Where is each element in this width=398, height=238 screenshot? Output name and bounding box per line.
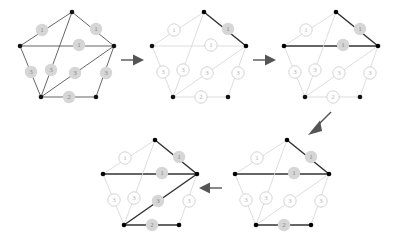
label-weight: 1 [94, 25, 98, 33]
arrow-3-to-4 [308, 112, 331, 135]
mst-steps-figure: 1 1 1 3 3 3 3 [0, 0, 398, 238]
vertex-right [376, 44, 381, 49]
vertex-bottom-left [122, 223, 127, 228]
panel-5: 1 1 1 3 3 3 3 [101, 138, 200, 232]
vertex-bottom-left [254, 223, 259, 228]
label-weight: 1 [172, 26, 176, 34]
label-weight: 3 [49, 66, 53, 74]
label-weight: 1 [358, 25, 362, 33]
arrow-4-to-5 [199, 183, 222, 194]
label-weight: 3 [264, 194, 268, 202]
arrow-head-right-icon [133, 55, 144, 66]
label-weight: 3 [104, 69, 108, 77]
vertex-bottom-right [94, 95, 99, 100]
edge-top-bottom-left [41, 12, 72, 97]
label-top-right: 1 [90, 23, 102, 35]
vertex-left [18, 44, 23, 49]
vertex-top [202, 10, 207, 15]
label-bottom-left-bottom-right: 2 [63, 91, 75, 103]
label-weight: 2 [150, 221, 154, 229]
label-top-bottom-left: 3 [177, 64, 189, 76]
label-top-bottom-left: 3 [45, 64, 57, 76]
vertex-left [282, 44, 287, 49]
label-top-right: 1 [222, 23, 234, 35]
label-top-left: 1 [168, 24, 180, 36]
vertex-right [327, 172, 332, 177]
label-weight: 1 [292, 169, 296, 177]
label-top-left: 1 [300, 24, 312, 36]
label-weight: 1 [177, 153, 181, 161]
label-weight: 1 [123, 154, 127, 162]
label-weight: 3 [288, 197, 292, 205]
panel-1: 1 1 1 3 3 3 3 [18, 10, 117, 104]
label-weight: 1 [304, 26, 308, 34]
label-bottom-left-bottom-right: 2 [278, 219, 290, 231]
label-weight: 3 [156, 197, 160, 205]
arrow-head-left-icon [199, 183, 210, 194]
label-top-right: 1 [305, 151, 317, 163]
label-top-left: 1 [119, 152, 131, 164]
vertex-bottom-left [171, 95, 176, 100]
panel-3: 1 1 1 3 3 3 3 [282, 10, 381, 104]
arrow-head-down-left-icon [308, 121, 322, 136]
label-weight: 2 [67, 93, 71, 101]
label-left-bottom-left: 3 [108, 194, 120, 206]
arrow-2-to-3 [253, 55, 276, 66]
label-top-left: 1 [251, 152, 263, 164]
label-weight: 3 [319, 197, 323, 205]
label-weight: 3 [368, 69, 372, 77]
label-weight: 1 [341, 41, 345, 49]
label-weight: 3 [293, 68, 297, 76]
label-left-bottom-left: 3 [157, 66, 169, 78]
vertex-left [150, 44, 155, 49]
label-weight: 3 [337, 69, 341, 77]
label-right-bottom-right: 3 [364, 67, 376, 79]
vertex-bottom-right [358, 95, 363, 100]
label-weight: 2 [199, 93, 203, 101]
label-weight: 1 [77, 41, 81, 49]
panel-1-labels: 1 1 1 3 3 3 3 [25, 23, 112, 103]
label-left-right: 1 [205, 39, 217, 51]
label-left-bottom-left: 3 [25, 66, 37, 78]
label-weight: 1 [160, 169, 164, 177]
label-top-left: 1 [36, 24, 48, 36]
label-right-bottom-right: 3 [100, 67, 112, 79]
arrow-head-right-icon [265, 55, 276, 66]
vertex-left [233, 172, 238, 177]
panel-4: 1 1 1 3 3 3 3 [233, 138, 332, 232]
vertex-top [285, 138, 290, 143]
vertex-right [244, 44, 249, 49]
label-right-bottom-left: 3 [152, 195, 164, 207]
label-weight: 3 [29, 68, 33, 76]
vertex-bottom-right [309, 223, 314, 228]
label-top-right: 1 [173, 151, 185, 163]
label-weight: 3 [112, 196, 116, 204]
label-left-right: 1 [73, 39, 85, 51]
label-right-bottom-left: 3 [201, 67, 213, 79]
vertex-bottom-right [226, 95, 231, 100]
label-top-right: 1 [354, 23, 366, 35]
label-left-right: 1 [337, 39, 349, 51]
label-top-bottom-left: 3 [128, 192, 140, 204]
label-weight: 3 [73, 69, 77, 77]
vertex-top [70, 10, 75, 15]
label-left-right: 1 [288, 167, 300, 179]
vertex-right [195, 172, 200, 177]
vertex-bottom-left [39, 95, 44, 100]
label-bottom-left-bottom-right: 2 [327, 91, 339, 103]
vertex-top [334, 10, 339, 15]
arrow-1-to-2 [121, 55, 144, 66]
label-right-bottom-left: 3 [69, 67, 81, 79]
label-right-bottom-right: 3 [183, 195, 195, 207]
label-left-right: 1 [156, 167, 168, 179]
label-right-bottom-right: 3 [232, 67, 244, 79]
label-weight: 1 [226, 25, 230, 33]
label-left-bottom-left: 3 [289, 66, 301, 78]
vertex-left [101, 172, 106, 177]
label-weight: 3 [244, 196, 248, 204]
label-weight: 3 [132, 194, 136, 202]
vertex-right [112, 44, 117, 49]
label-top-bottom-left: 3 [309, 64, 321, 76]
label-weight: 3 [313, 66, 317, 74]
label-weight: 3 [181, 66, 185, 74]
